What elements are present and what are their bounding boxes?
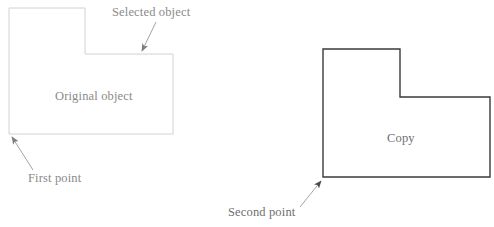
selected-object-leader-line: [142, 22, 156, 51]
second-point-leader-line: [300, 181, 321, 207]
copy-label: Copy: [387, 132, 415, 145]
first-point-leader-line: [12, 137, 33, 170]
selected-object-label: Selected object: [112, 6, 190, 19]
diagram-canvas: [0, 0, 494, 227]
diagram-root: Selected object Original object First po…: [0, 0, 494, 227]
original-object-shape[interactable]: [9, 8, 173, 134]
first-point-label: First point: [28, 172, 81, 185]
second-point-label: Second point: [228, 206, 295, 219]
copy-object-shape[interactable]: [323, 49, 490, 177]
original-object-label: Original object: [55, 90, 133, 103]
